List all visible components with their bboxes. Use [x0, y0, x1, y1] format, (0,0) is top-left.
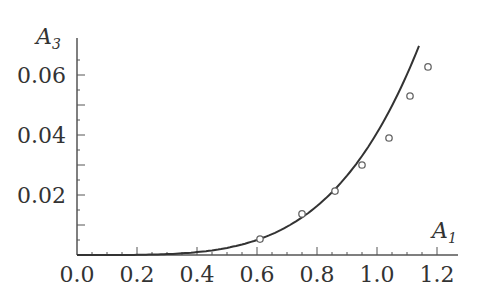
x-tick-label: 1.2 [420, 262, 455, 287]
x-axis-label: A1 [430, 218, 457, 246]
axis-ticks [77, 60, 437, 255]
data-point [257, 236, 263, 242]
data-point [407, 93, 413, 99]
data-point [425, 64, 431, 70]
y-tick-label: 0.04 [17, 123, 66, 148]
data-points [257, 64, 431, 243]
data-point [386, 135, 392, 141]
data-point [359, 162, 365, 168]
x-tick-label: 0.4 [180, 262, 215, 287]
x-tick-label: 0.6 [240, 262, 275, 287]
data-point [332, 188, 338, 194]
y-axis-label: A3 [34, 24, 61, 52]
data-point [299, 211, 305, 217]
x-tick-label: 0.0 [60, 262, 95, 287]
axes [77, 38, 458, 255]
theory-curve [77, 46, 419, 255]
x-tick-label: 1.0 [360, 262, 395, 287]
chart: 0.00.20.40.60.81.01.20.020.040.06 A3 A1 [0, 0, 482, 302]
y-tick-label: 0.06 [17, 63, 66, 88]
x-tick-label: 0.2 [120, 262, 155, 287]
tick-labels: 0.00.20.40.60.81.01.20.020.040.06 [17, 63, 454, 287]
y-tick-label: 0.02 [17, 183, 66, 208]
x-tick-label: 0.8 [300, 262, 335, 287]
